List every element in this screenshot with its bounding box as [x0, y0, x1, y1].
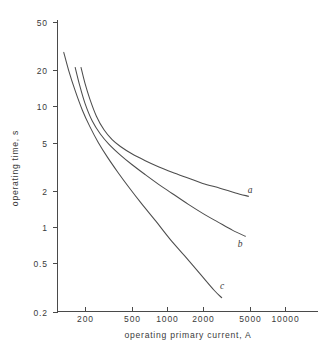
- y-tick-label: 20: [37, 66, 48, 76]
- curve-labels-group: abc: [220, 185, 253, 291]
- curve-b: [75, 67, 245, 236]
- x-tick-label: 5000: [239, 314, 262, 324]
- curve-c: [64, 52, 222, 297]
- axes-group: [58, 20, 319, 312]
- y-ticklabels-group: 5020105210.50.2: [33, 18, 48, 318]
- curve-label-c: c: [220, 281, 225, 291]
- x-tick-label: 2000: [192, 314, 215, 324]
- y-tick-label: 2: [42, 187, 48, 197]
- chart-page: 5020105210.50.2 20050010002000500010000 …: [0, 0, 333, 362]
- y-tick-label: 5: [42, 139, 48, 149]
- x-ticks-group: [86, 307, 286, 312]
- curve-a: [81, 67, 249, 196]
- y-tick-label: 10: [37, 102, 48, 112]
- y-tick-label: 1: [42, 223, 48, 233]
- x-axis-title: operating primary current, A: [124, 330, 251, 340]
- y-tick-label: 0.2: [33, 308, 48, 318]
- curves-group: [64, 52, 249, 297]
- curve-label-a: a: [248, 185, 253, 195]
- x-tick-label: 1000: [156, 314, 179, 324]
- x-tick-label: 10000: [271, 314, 299, 324]
- x-tick-label: 500: [124, 314, 141, 324]
- x-tick-label: 200: [77, 314, 94, 324]
- curve-label-b: b: [238, 239, 243, 249]
- y-tick-label: 50: [37, 18, 48, 28]
- y-ticks-group: [53, 23, 58, 313]
- y-tick-label: 0.5: [33, 259, 48, 269]
- y-axis-title: operating time, s: [10, 130, 20, 206]
- x-ticklabels-group: 20050010002000500010000: [77, 314, 300, 324]
- loglog-chart: 5020105210.50.2 20050010002000500010000 …: [0, 0, 333, 362]
